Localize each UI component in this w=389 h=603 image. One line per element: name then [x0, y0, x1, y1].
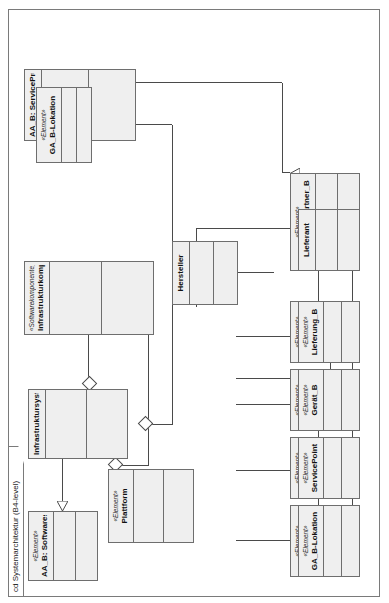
class-box-lieferant[interactable]: Lieferant [298, 209, 360, 271]
connector-line [196, 228, 290, 229]
class-name: Plattform [120, 473, 130, 539]
class-operations [342, 438, 359, 498]
class-operations [76, 512, 97, 580]
connector-line [236, 378, 290, 379]
class-box-ga-b-lokation[interactable]: «Element» GA_B-Lokation [36, 87, 92, 163]
class-operations [342, 370, 359, 430]
class-stereotype: «Element» [302, 441, 310, 495]
connector-line [236, 336, 290, 337]
class-attributes [54, 512, 76, 580]
class-operations [342, 302, 359, 362]
connector-line [236, 404, 290, 405]
class-attributes [324, 506, 342, 576]
connector-line [88, 335, 89, 381]
connector-line [282, 172, 290, 173]
class-operations [89, 70, 135, 140]
class-name: ServicePoint [310, 441, 320, 495]
connector-line [148, 335, 149, 466]
class-operations [77, 88, 91, 162]
class-attributes [46, 390, 87, 458]
class-box-aab-softwaresystem[interactable]: «Element» AA_B: Softwaresystem [28, 511, 98, 581]
class-attributes [316, 210, 338, 270]
class-name: GA_B-Lokation [48, 91, 58, 159]
class-operations [214, 242, 237, 304]
connector-line [282, 83, 283, 173]
class-header: «Element»GA_B-Lokation [299, 506, 324, 576]
class-box-geraet-b[interactable]: «Element»Gerät_B [298, 369, 360, 431]
connector-line [236, 540, 290, 541]
connector-line [238, 272, 274, 273]
generalization-arrow [57, 501, 68, 511]
class-box-ga-b-lokation[interactable]: «Element»GA_B-Lokation [298, 505, 360, 577]
class-box-infrastrukturkomponente[interactable]: «Softwarekomponente_B» Infrastrukturkomp… [24, 261, 154, 335]
class-header: «Element»Gerät_B [299, 370, 324, 430]
class-name: Lieferung_B [310, 305, 320, 359]
class-header: «Softwarekomponente_B» Infrastrukturkomp… [25, 262, 50, 334]
connector-line [62, 459, 63, 503]
class-operations [164, 470, 193, 542]
class-header: «Element»Lieferung_B [299, 302, 324, 362]
diagram-page: cd Systemarchitektur (B4-level) [0, 0, 389, 603]
class-name: GA_B-Lokation [310, 509, 320, 573]
class-stereotype: «Element» [112, 473, 120, 539]
class-box-servicepoint[interactable]: «Element»ServicePoint [298, 437, 360, 499]
class-stereotype: «Element» [302, 305, 310, 359]
class-name: Infrastruktursystem [32, 393, 42, 455]
class-box-hersteller[interactable]: Hersteller [172, 241, 238, 305]
class-name: Lieferant [302, 213, 312, 267]
class-attributes [324, 370, 342, 430]
class-name: Hersteller [176, 245, 186, 301]
class-header: «Element»ServicePoint [299, 438, 324, 498]
connector-line [236, 470, 290, 471]
class-attributes [190, 242, 214, 304]
class-attributes [324, 302, 342, 362]
class-header: Infrastruktursystem [29, 390, 46, 458]
class-stereotype: «Element» [302, 373, 310, 427]
class-header: «Element» Plattform [109, 470, 134, 542]
class-operations [102, 262, 153, 334]
class-attributes [62, 88, 77, 162]
class-box-lieferung-b[interactable]: «Element»Lieferung_B [298, 301, 360, 363]
class-header: «Element» AA_B: Softwaresystem [29, 512, 54, 580]
diagram-canvas: cd Systemarchitektur (B4-level) [0, 0, 389, 603]
class-header: «Element» GA_B-Lokation [37, 88, 62, 162]
class-name: Infrastrukturkomponente [36, 265, 46, 331]
class-name: AA_B: Softwaresystem [40, 515, 50, 577]
class-stereotype: «Element» [32, 515, 40, 577]
class-header: Hersteller [173, 242, 190, 304]
diagram-title-tab: cd Systemarchitektur (B4-level) [9, 446, 24, 596]
class-box-plattform[interactable]: «Element» Plattform [108, 469, 194, 543]
class-header: Lieferant [299, 210, 316, 270]
class-stereotype: «Element» [302, 509, 310, 573]
class-operations [87, 390, 127, 458]
class-operations [342, 506, 359, 576]
class-stereotype: «Softwarekomponente_B» [28, 265, 36, 331]
class-stereotype: «Element» [40, 91, 48, 159]
class-name: Gerät_B [310, 373, 320, 427]
class-box-infrastruktursystem[interactable]: Infrastruktursystem [28, 389, 128, 459]
class-attributes [324, 438, 342, 498]
class-attributes [50, 262, 102, 334]
class-operations [338, 210, 359, 270]
class-attributes [134, 470, 164, 542]
